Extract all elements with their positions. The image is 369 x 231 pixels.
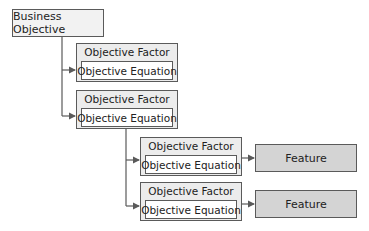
objective-factor-title: Objective Factor xyxy=(77,93,177,105)
feature-box-2: Feature xyxy=(255,190,357,218)
objective-factor-title: Objective Factor xyxy=(141,140,241,152)
objective-factor-box-2: Objective Factor Objective Equation xyxy=(76,90,178,129)
objective-equation-box: Objective Equation xyxy=(145,200,237,219)
business-objective-label: Business Objective xyxy=(13,10,103,36)
objective-factor-box-4: Objective Factor Objective Equation xyxy=(140,182,242,221)
feature-label: Feature xyxy=(285,198,327,211)
objective-equation-box: Objective Equation xyxy=(145,155,237,174)
objective-equation-box: Objective Equation xyxy=(81,108,173,127)
business-objective-box: Business Objective xyxy=(12,9,104,37)
objective-factor-box-1: Objective Factor Objective Equation xyxy=(76,43,178,82)
feature-box-1: Feature xyxy=(255,144,357,172)
objective-equation-box: Objective Equation xyxy=(81,61,173,80)
objective-factor-title: Objective Factor xyxy=(141,185,241,197)
objective-factor-box-3: Objective Factor Objective Equation xyxy=(140,137,242,176)
objective-factor-title: Objective Factor xyxy=(77,46,177,58)
feature-label: Feature xyxy=(285,152,327,165)
